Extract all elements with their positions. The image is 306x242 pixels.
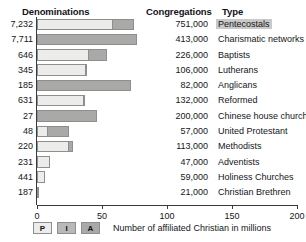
x-axis-tick-label: 0 — [34, 211, 39, 221]
type-label: Reformed — [218, 95, 258, 105]
table-row: 44159,000Holiness Churches — [0, 170, 306, 185]
denominations-value: 7,711 — [0, 34, 33, 44]
congregations-value: 113,000 — [140, 141, 208, 151]
table-row: 18721,000Christian Brethren — [0, 185, 306, 200]
bar-segment-p — [37, 19, 112, 31]
bar-segment-p — [37, 49, 88, 61]
x-axis-tick-label: 50 — [97, 211, 107, 221]
x-axis-tick — [297, 205, 298, 209]
x-axis-tick-label: 200 — [289, 211, 304, 221]
legend-swatch-p: P — [33, 222, 52, 234]
legend-swatch-i: I — [57, 222, 76, 234]
type-label: Adventists — [218, 157, 260, 167]
congregations-value: 132,000 — [140, 95, 208, 105]
bar — [37, 156, 50, 168]
bar-segment-a — [112, 19, 134, 31]
congregations-value: 21,000 — [140, 187, 208, 197]
column-header-type: Type — [222, 6, 243, 17]
denominations-value: 441 — [0, 172, 33, 182]
x-axis-tick-label: 100 — [159, 211, 174, 221]
bar-segment-p — [37, 156, 50, 168]
bar — [37, 34, 137, 46]
bar — [37, 49, 107, 61]
denominations-value: 27 — [0, 111, 33, 121]
bar — [37, 126, 69, 138]
congregations-value: 413,000 — [140, 34, 208, 44]
type-label: United Protestant — [218, 126, 288, 136]
table-row: 345106,000Lutherans — [0, 63, 306, 78]
x-axis-tick — [167, 205, 168, 209]
bar-segment-a — [68, 141, 73, 153]
table-row: 220113,000Methodists — [0, 139, 306, 154]
congregations-value: 57,000 — [140, 126, 208, 136]
bar-segment-p — [37, 126, 47, 138]
x-axis-tick-label: 150 — [224, 211, 239, 221]
bar-segment-p — [37, 187, 39, 199]
table-row: 7,711413,000Charismatic networks — [0, 32, 306, 47]
type-label: Lutherans — [218, 65, 258, 75]
congregations-value: 200,000 — [140, 111, 208, 121]
denominations-value: 185 — [0, 80, 33, 90]
bar-segment-a — [85, 64, 87, 76]
bar-segment-a — [88, 49, 108, 61]
denominations-value: 48 — [0, 126, 33, 136]
column-header-denominations: Denominations — [22, 6, 89, 17]
bar-segment-p — [37, 171, 45, 183]
table-row: 4857,000United Protestant — [0, 124, 306, 139]
bar — [37, 110, 97, 122]
table-row: 23147,000Adventists — [0, 155, 306, 170]
type-label: Chinese house churches — [218, 111, 306, 121]
congregations-value: 106,000 — [140, 65, 208, 75]
congregations-value: 59,000 — [140, 172, 208, 182]
type-label: Baptists — [218, 50, 250, 60]
denominations-value: 7,232 — [0, 19, 33, 29]
bar — [37, 80, 131, 92]
bar-segment-p — [37, 95, 83, 107]
congregations-value: 82,000 — [140, 80, 208, 90]
x-axis-tick — [102, 205, 103, 209]
bar-segment-p — [37, 64, 85, 76]
congregations-value: 751,000 — [140, 19, 208, 29]
type-label: Pentecostals — [216, 19, 272, 29]
congregations-value: 226,000 — [140, 50, 208, 60]
chart-rows: 7,232751,000Pentecostals7,711413,000Char… — [0, 17, 306, 201]
denominations-value: 631 — [0, 95, 33, 105]
legend-swatch-a: A — [81, 222, 100, 234]
table-row: 7,232751,000Pentecostals — [0, 17, 306, 32]
bar — [37, 187, 39, 199]
denominations-value: 345 — [0, 65, 33, 75]
type-label: Methodists — [218, 141, 262, 151]
type-label: Christian Brethren — [218, 187, 291, 197]
bar-segment-a — [83, 95, 86, 107]
bar-segment-p — [37, 141, 68, 153]
denominations-value: 231 — [0, 157, 33, 167]
denominations-value: 646 — [0, 50, 33, 60]
table-row: 18582,000Anglicans — [0, 78, 306, 93]
bar — [37, 141, 73, 153]
table-row: 27200,000Chinese house churches — [0, 109, 306, 124]
table-row: 646226,000Baptists — [0, 48, 306, 63]
legend: P I A Number of affiliated Christian in … — [33, 222, 271, 234]
bar — [37, 64, 87, 76]
bar — [37, 171, 45, 183]
x-axis-tick — [232, 205, 233, 209]
bar-segment-a — [37, 110, 97, 122]
denominations-value: 220 — [0, 141, 33, 151]
congregations-value: 47,000 — [140, 157, 208, 167]
table-row: 631132,000Reformed — [0, 93, 306, 108]
type-label: Anglicans — [218, 80, 257, 90]
legend-caption: Number of affiliated Christian in millio… — [113, 223, 271, 233]
bar-segment-a — [37, 34, 137, 46]
bar-segment-a — [37, 80, 131, 92]
type-label: Holiness Churches — [218, 172, 294, 182]
column-header-congregations: Congregations — [146, 6, 212, 17]
denominations-value: 187 — [0, 187, 33, 197]
affiliated-christians-bar-chart: Denominations Congregations Type 7,23275… — [0, 0, 306, 242]
bar — [37, 95, 85, 107]
x-axis-tick — [37, 205, 38, 209]
bar-segment-a — [47, 126, 69, 138]
x-axis: 050100150200 — [37, 205, 297, 206]
bar — [37, 19, 134, 31]
type-label: Charismatic networks — [218, 34, 304, 44]
